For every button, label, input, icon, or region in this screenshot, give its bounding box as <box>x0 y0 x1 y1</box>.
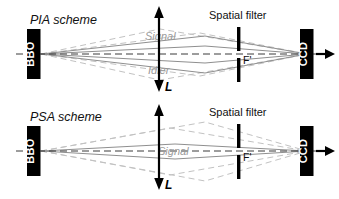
pia-scheme-title: PIA scheme <box>30 13 97 27</box>
optical-scheme-figure: PIA scheme Signal Idler L Spatial fi <box>0 0 339 199</box>
pia-bbo-label: BBO <box>24 41 36 66</box>
psa-length-label: L <box>165 178 172 192</box>
diagram-canvas: PIA scheme Signal Idler L Spatial fi <box>0 0 339 199</box>
pia-beam-label-signal: Signal <box>145 30 176 42</box>
psa-scheme-title: PSA scheme <box>30 110 102 124</box>
pia-ccd-label: CCD <box>297 42 309 67</box>
psa-beam-label-signal: Signal <box>158 145 189 157</box>
psa-filter-point-label: F' <box>243 151 251 163</box>
pia-spatial-filter-title: Spatial filter <box>209 9 267 21</box>
psa-bbo-label: BBO <box>24 138 36 163</box>
pia-filter-point-label: F' <box>243 54 251 66</box>
psa-spatial-filter-title: Spatial filter <box>209 106 267 118</box>
psa-ccd-label: CCD <box>297 139 309 164</box>
pia-length-label: L <box>165 80 172 94</box>
